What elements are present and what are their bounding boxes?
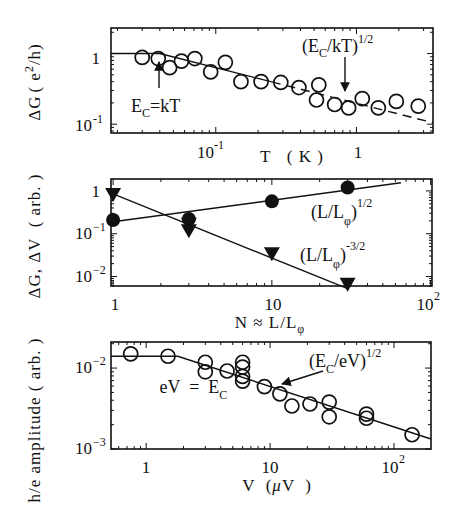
data-point-triangle xyxy=(340,278,356,292)
panel-b-xtick-10: 10 xyxy=(265,295,282,314)
panel-c-ytick-0.01-exp: −2 xyxy=(93,354,106,368)
panel-b-length-scaling: ΔG, ΔV ( arb. ) 1 10 −1 10 −2 1 10 10 2 … xyxy=(25,174,440,336)
panel-b-data-points xyxy=(105,181,356,292)
panel-c-ylabel: h/e amplitude ( arb. ) xyxy=(25,337,44,502)
panel-c-ytick-0.01: 10 xyxy=(75,358,92,377)
data-point-circle xyxy=(106,213,120,227)
panel-b-ytick-0.1: 10 xyxy=(75,224,92,243)
data-point xyxy=(285,399,299,413)
panel-c-xtick-10: 10 xyxy=(262,458,279,477)
data-point-triangle xyxy=(264,247,280,261)
data-point-triangle xyxy=(181,224,197,238)
panel-a-ytick-0.1-exp: -1 xyxy=(93,112,103,126)
panel-c-annotation-ev-ec: eV = EC xyxy=(128,377,250,403)
data-point-triangle xyxy=(105,188,121,202)
panel-b-ytick-0.01-exp: −2 xyxy=(93,263,106,277)
data-point-circle xyxy=(341,181,355,195)
data-point xyxy=(234,75,248,89)
data-point xyxy=(411,99,425,113)
panel-b-xtick-100: 10 xyxy=(417,295,434,314)
data-point xyxy=(310,93,324,107)
panel-c-xtick-1: 1 xyxy=(142,458,151,477)
panel-b-xlabel: N ≈ L/Lφ xyxy=(235,313,306,336)
panel-a-ytick-1: 1 xyxy=(92,49,101,68)
panel-c-arrow-scaling xyxy=(282,371,323,384)
panel-a-ylabel: ΔG( e2/h) xyxy=(22,43,44,121)
panel-b-ylabel: ΔG, ΔV ( arb. ) xyxy=(25,174,44,299)
panel-c-xtick-100-exp: 2 xyxy=(399,452,405,466)
data-point xyxy=(342,101,356,115)
data-point xyxy=(389,94,403,108)
panel-a-annotation-scaling: (EC/kT)1/2 xyxy=(302,32,373,60)
panel-b-annotation-half: (L/Lφ)1/2 xyxy=(311,196,372,228)
data-point-circle xyxy=(265,194,279,208)
panel-c-voltage: h/e amplitude ( arb. ) 10 −2 10 −3 1 10 … xyxy=(25,337,431,502)
panel-a-xtick-0.1: 10 xyxy=(197,143,214,162)
data-point xyxy=(322,410,336,424)
data-point xyxy=(328,97,342,111)
figure: ΔG( e2/h) 1 10 -1 10 -1 1 T ( K ) EC=kT … xyxy=(0,0,460,523)
data-point xyxy=(371,101,385,115)
panel-b-ytick-1: 1 xyxy=(92,182,101,201)
data-point xyxy=(135,50,149,64)
panel-c-fit-line xyxy=(111,356,431,439)
data-point xyxy=(174,54,188,68)
panel-a-xtick-1: 1 xyxy=(354,143,363,162)
panel-b-xtick-1: 1 xyxy=(111,295,120,314)
data-point xyxy=(124,347,138,361)
panel-b-xtick-100-exp: 2 xyxy=(434,289,440,303)
panel-c-ytick-0.001-exp: −3 xyxy=(93,435,106,449)
panel-b-ytick-0.1-exp: −1 xyxy=(93,220,106,234)
data-point xyxy=(355,92,369,106)
panel-a-annotation-ec-kt: EC=kT xyxy=(131,96,180,120)
panel-a-ytick-0.1: 10 xyxy=(75,116,92,135)
data-point xyxy=(188,52,202,66)
panel-a-temperature: ΔG( e2/h) 1 10 -1 10 -1 1 T ( K ) EC=kT … xyxy=(22,28,433,166)
panel-b-ytick-0.01: 10 xyxy=(75,267,92,286)
data-point xyxy=(322,395,336,409)
panel-c-xlabel: V (μV ) xyxy=(206,476,339,495)
panel-c-xtick-100: 10 xyxy=(382,458,399,477)
panel-a-xlabel: T ( K ) xyxy=(260,147,324,166)
panel-a-xtick-0.1-exp: -1 xyxy=(214,138,224,152)
panel-b-annotation-minus-three-half: (L/Lφ)-3/2 xyxy=(300,239,365,271)
data-point xyxy=(312,78,326,92)
data-point xyxy=(218,55,232,69)
data-point xyxy=(254,75,268,89)
panel-c-ytick-0.001: 10 xyxy=(75,439,92,458)
